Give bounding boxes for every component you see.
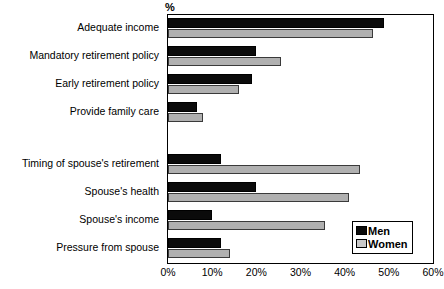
bar-women: [168, 249, 230, 259]
bar-men: [168, 182, 256, 192]
bar-men: [168, 74, 252, 84]
x-tick-label: 40%: [334, 266, 355, 278]
bar-men: [168, 238, 221, 248]
x-tick-label: 10%: [202, 266, 223, 278]
bar-men: [168, 154, 221, 164]
category-axis-labels: Adequate incomeMandatory retirement poli…: [0, 14, 163, 264]
category-label: Pressure from spouse: [56, 242, 159, 253]
bar-women: [168, 193, 349, 203]
legend-item-women: Women: [356, 237, 408, 250]
bar-women: [168, 57, 281, 67]
x-axis-unit-label: %: [165, 1, 175, 13]
x-axis-tick-labels: 0%10%20%30%40%50%60%: [0, 266, 441, 282]
bar-men: [168, 102, 197, 112]
bar-women: [168, 221, 325, 231]
bar-women: [168, 29, 373, 39]
x-tick-label: 20%: [246, 266, 267, 278]
x-tick-label: 60%: [422, 266, 443, 278]
bar-men: [168, 46, 256, 56]
legend-swatch-icon: [356, 226, 367, 235]
category-label: Mandatory retirement policy: [29, 50, 159, 61]
category-label: Timing of spouse's retirement: [22, 158, 159, 169]
legend-swatch-icon: [356, 239, 367, 248]
bar-men: [168, 18, 384, 28]
category-label: Adequate income: [77, 22, 159, 33]
bar-men: [168, 210, 212, 220]
legend-item-men: Men: [356, 224, 408, 237]
bar-women: [168, 85, 239, 95]
x-tick-label: 0%: [160, 266, 175, 278]
legend-label: Women: [368, 238, 408, 250]
chart-legend: MenWomen: [352, 221, 413, 254]
category-label: Provide family care: [70, 106, 159, 117]
category-label: Spouse's health: [85, 186, 159, 197]
bar-women: [168, 113, 203, 123]
category-label: Early retirement policy: [55, 78, 159, 89]
legend-label: Men: [368, 225, 390, 237]
bar-women: [168, 165, 360, 175]
x-tick-label: 30%: [290, 266, 311, 278]
category-label: Spouse's income: [79, 214, 159, 225]
x-tick-label: 50%: [378, 266, 399, 278]
